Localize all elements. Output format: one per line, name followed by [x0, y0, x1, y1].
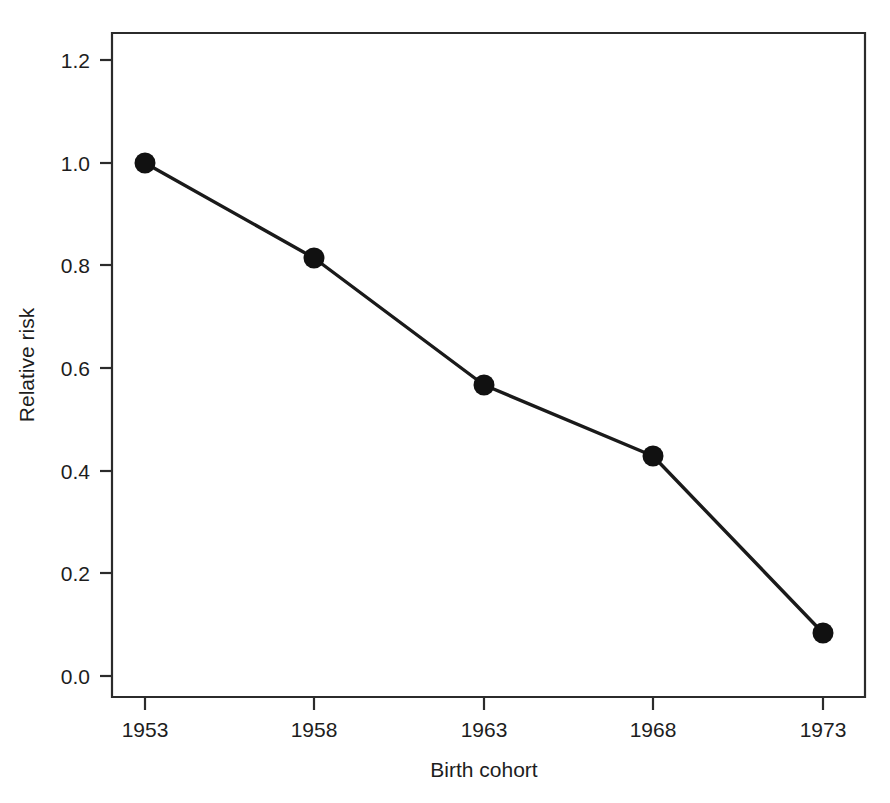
y-tick-label: 0.6	[61, 357, 90, 380]
y-tick-label: 1.2	[61, 49, 90, 72]
y-tick-label: 0.4	[61, 460, 91, 483]
y-tick-label: 0.2	[61, 562, 90, 585]
y-tick-label: 0.8	[61, 254, 90, 277]
data-point-marker[interactable]	[135, 153, 156, 174]
x-axis-tick-labels: 1953 1958 1963 1968 1973	[122, 718, 847, 741]
y-axis-title: Relative risk	[15, 307, 38, 422]
y-axis-tick-labels: 1.2 1.0 0.8 0.6 0.4 0.2 0.0	[61, 49, 91, 688]
y-tick-label: 0.0	[61, 665, 90, 688]
x-axis-title: Birth cohort	[430, 758, 538, 781]
data-point-marker[interactable]	[474, 375, 495, 396]
x-axis-ticks	[145, 697, 823, 710]
data-point-marker[interactable]	[813, 623, 834, 644]
plot-area-background	[112, 33, 865, 697]
y-axis-ticks	[100, 60, 112, 676]
y-tick-label: 1.0	[61, 152, 90, 175]
x-tick-label: 1973	[800, 718, 847, 741]
figure-container: 1.2 1.0 0.8 0.6 0.4 0.2 0.0 1953 1958 19…	[0, 0, 890, 803]
x-tick-label: 1968	[630, 718, 677, 741]
x-tick-label: 1953	[122, 718, 169, 741]
data-point-marker[interactable]	[643, 446, 664, 467]
x-tick-label: 1958	[291, 718, 338, 741]
x-tick-label: 1963	[461, 718, 508, 741]
relative-risk-line-chart: 1.2 1.0 0.8 0.6 0.4 0.2 0.0 1953 1958 19…	[0, 0, 890, 803]
data-point-marker[interactable]	[304, 248, 325, 269]
